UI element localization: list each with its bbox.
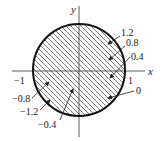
level-label-0-4: 0.4 bbox=[131, 51, 144, 62]
level-label-neg-0-8: −0.8 bbox=[12, 93, 30, 104]
level-label-0: 0 bbox=[136, 85, 141, 96]
level-label-0-8: 0.8 bbox=[126, 37, 139, 48]
tick-label-pos-x: 1 bbox=[128, 75, 133, 86]
level-curve-diagram: x y 1 −1 1.2 0.8 0.4 0 −0.8 −1.2 −0.4 bbox=[0, 0, 161, 141]
x-axis-label: x bbox=[147, 65, 153, 77]
level-label-neg-0-4: −0.4 bbox=[38, 119, 56, 130]
y-axis-label: y bbox=[70, 3, 76, 15]
tick-label-neg-x: −1 bbox=[14, 75, 25, 86]
level-label-neg-1-2: −1.2 bbox=[20, 106, 38, 117]
